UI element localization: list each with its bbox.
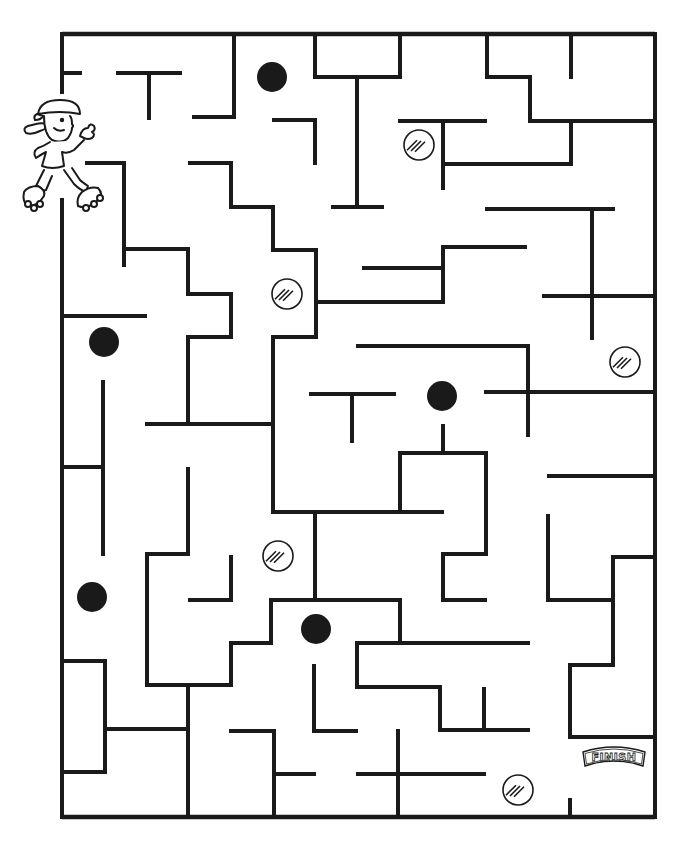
finish-banner: FINISH [581,744,647,768]
hatched-ball-icon [503,775,533,805]
solid-ball-icon [257,62,287,92]
hatched-ball-icon [272,279,302,309]
hatched-ball-icon [404,130,434,160]
hatched-ball-icon [263,541,293,571]
solid-ball-icon [301,614,331,644]
solid-ball-icon [77,582,107,612]
roller-skater-character-icon[interactable] [18,92,114,222]
finish-text: FINISH [591,751,636,764]
maze-walls [62,34,655,817]
solid-ball-icon [89,327,119,357]
hatched-ball-icon [610,347,640,377]
solid-ball-icon [427,381,457,411]
